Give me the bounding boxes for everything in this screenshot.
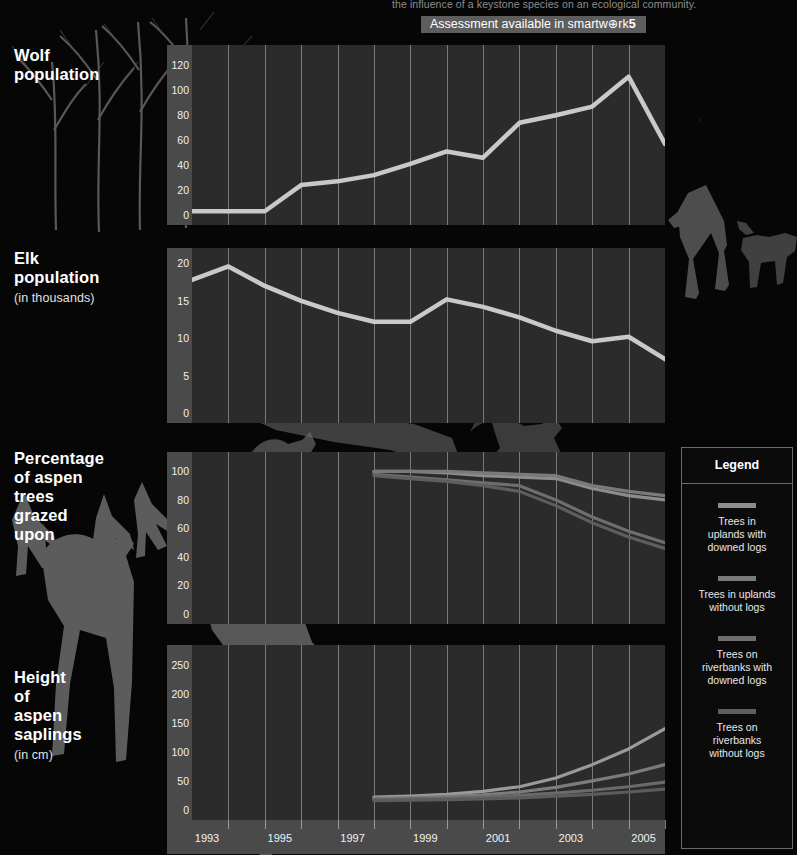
height-plot-area: [192, 645, 665, 820]
series-line: [192, 77, 665, 212]
running-header-text: the influence of a keystone species on a…: [392, 0, 797, 10]
x-tick: [301, 820, 302, 829]
y-tick-label: 5: [183, 371, 189, 381]
elk-plot-area: [192, 248, 665, 423]
panel-wolf-title: Wolf population: [14, 46, 99, 84]
y-tick-label: 40: [177, 552, 189, 562]
x-tick-label: 2001: [486, 832, 510, 844]
legend-item-label: Trees on riverbanks with downed logs: [682, 648, 792, 687]
x-tick: [265, 820, 266, 829]
y-tick-label: 15: [177, 296, 189, 306]
x-axis: 1993199519971999200120032005: [167, 820, 665, 854]
grazed-plot-area: [192, 452, 665, 624]
x-tick-label: 1995: [268, 832, 292, 844]
legend-item-label: Trees on riverbanks without logs: [682, 721, 792, 760]
x-tick: [374, 820, 375, 829]
y-tick-label: 50: [177, 776, 189, 786]
x-tick: [483, 820, 484, 829]
y-tick-label: 0: [183, 609, 189, 619]
legend-divider: [682, 483, 792, 484]
x-tick: [592, 820, 593, 829]
legend-item-label: Trees in uplands without logs: [682, 588, 792, 614]
legend-item[interactable]: Trees on riverbanks without logs: [682, 709, 792, 760]
x-tick: [410, 820, 411, 829]
legend-items: Trees in uplands with downed logsTrees i…: [682, 503, 792, 782]
y-tick-label: 100: [171, 466, 189, 476]
legend-swatch: [718, 576, 756, 581]
x-tick-label: 1997: [340, 832, 364, 844]
x-tick-label: 1999: [413, 832, 437, 844]
series-svg: [192, 452, 665, 624]
x-tick-label: 1993: [195, 832, 219, 844]
y-tick-label: 120: [171, 60, 189, 70]
y-tick-label: 20: [177, 258, 189, 268]
y-tick-label: 0: [183, 210, 189, 220]
y-tick-label: 20: [177, 185, 189, 195]
series-svg: [192, 645, 665, 820]
legend-swatch: [718, 503, 756, 508]
x-tick: [228, 820, 229, 829]
y-tick-label: 80: [177, 495, 189, 505]
elk-y-axis: 05101520: [167, 248, 192, 423]
smartwork-badge-label: Assessment available in smartw⊕rk: [430, 17, 629, 31]
panel-height-subtitle: (in cm): [14, 748, 53, 762]
x-tick: [629, 820, 630, 829]
y-tick-label: 60: [177, 523, 189, 533]
height-y-axis: 050100150200250: [167, 645, 192, 820]
x-tick: [338, 820, 339, 829]
panel-height-title-main: Height of aspen saplings: [14, 668, 82, 743]
x-tick: [519, 820, 520, 829]
series-svg: [192, 248, 665, 423]
y-tick-label: 60: [177, 135, 189, 145]
x-tick: [447, 820, 448, 829]
legend-item[interactable]: Trees in uplands without logs: [682, 576, 792, 614]
y-tick-label: 80: [177, 110, 189, 120]
smartwork-badge-version: 5: [629, 17, 636, 31]
wolf-plot-area: [192, 45, 665, 225]
y-tick-label: 40: [177, 160, 189, 170]
x-tick: [665, 820, 666, 829]
legend: Legend Trees in uplands with downed logs…: [681, 447, 793, 849]
y-tick-label: 200: [171, 689, 189, 699]
y-tick-label: 0: [183, 408, 189, 418]
y-tick-label: 0: [183, 805, 189, 815]
panel-elk-subtitle: (in thousands): [14, 291, 95, 305]
elk-silhouette-icon: [737, 221, 797, 288]
y-tick-label: 10: [177, 333, 189, 343]
legend-swatch: [718, 636, 756, 641]
panel-elk-title: Elk population (in thousands): [14, 249, 99, 306]
wolf-silhouette-icon: [668, 185, 729, 299]
y-tick-label: 20: [177, 580, 189, 590]
legend-item[interactable]: Trees in uplands with downed logs: [682, 503, 792, 554]
y-tick-label: 100: [171, 747, 189, 757]
panel-grazed-title: Percentage of aspen trees grazed upon: [14, 449, 104, 544]
wolf-y-axis: 020406080100120: [167, 45, 192, 225]
legend-item[interactable]: Trees on riverbanks with downed logs: [682, 636, 792, 687]
legend-item-label: Trees in uplands with downed logs: [682, 515, 792, 554]
legend-title: Legend: [682, 458, 792, 472]
legend-swatch: [718, 709, 756, 714]
series-svg: [192, 45, 665, 225]
y-tick-label: 100: [171, 85, 189, 95]
y-tick-label: 250: [171, 660, 189, 670]
x-tick-label: 2005: [631, 832, 655, 844]
series-line: [192, 266, 665, 359]
smartwork-badge[interactable]: Assessment available in smartw⊕rk5: [421, 16, 646, 33]
panel-height-title: Height of aspen saplings (in cm): [14, 649, 82, 763]
x-tick-label: 2003: [559, 832, 583, 844]
grazed-y-axis: 020406080100: [167, 452, 192, 624]
panel-elk-title-main: Elk population: [14, 249, 99, 286]
y-tick-label: 150: [171, 718, 189, 728]
infographic-page: the influence of a keystone species on a…: [0, 0, 797, 855]
x-tick: [556, 820, 557, 829]
